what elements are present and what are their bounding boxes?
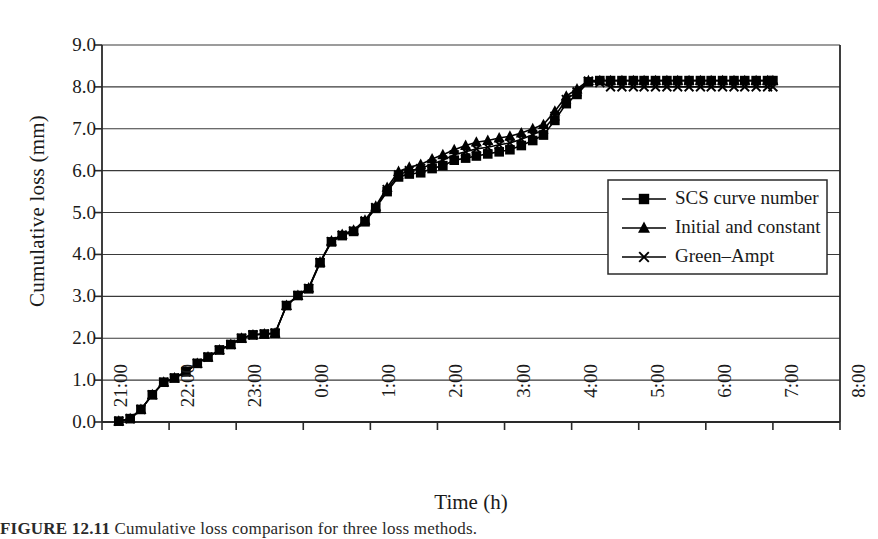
legend-labels: SCS curve numberInitial and constantGree… bbox=[0, 0, 878, 539]
caption-text: Cumulative loss comparison for three los… bbox=[115, 519, 478, 538]
legend-item-label-1: Initial and constant bbox=[675, 217, 821, 237]
legend-item-label-2: Green–Ampt bbox=[675, 246, 774, 266]
figure-container: Cumulative loss (mm) 0.01.02.03.04.05.06… bbox=[0, 0, 878, 539]
legend-item-label-0: SCS curve number bbox=[675, 188, 819, 208]
caption-prefix: FIGURE 12.11 bbox=[0, 519, 110, 538]
figure-caption: FIGURE 12.11 Cumulative loss comparison … bbox=[0, 519, 878, 539]
